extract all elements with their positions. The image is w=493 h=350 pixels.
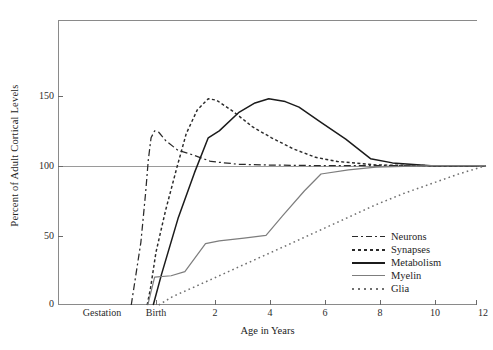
legend-item-myelin: Myelin [352,269,452,282]
legend-swatch-synapses [352,249,385,251]
legend-swatch-myelin [352,275,385,276]
legend-swatch-metabolism [352,262,385,264]
legend-label-synapses: Synapses [391,243,430,256]
legend-label-glia: Glia [391,282,409,295]
legend-label-neurons: Neurons [391,230,427,243]
legend-label-myelin: Myelin [391,269,421,282]
legend-item-synapses: Synapses [352,243,452,256]
chart-legend: Neurons Synapses Metabolism Myelin Glia [352,230,452,295]
legend-label-metabolism: Metabolism [391,256,441,269]
legend-item-glia: Glia [352,282,452,295]
legend-swatch-neurons [352,236,385,237]
legend-swatch-glia [352,288,385,290]
legend-item-neurons: Neurons [352,230,452,243]
legend-item-metabolism: Metabolism [352,256,452,269]
